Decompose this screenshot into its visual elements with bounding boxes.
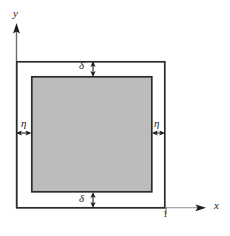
y-axis-label: y — [13, 8, 18, 19]
diagram-svg — [0, 0, 230, 236]
eta-left-label: η — [21, 118, 26, 129]
x-axis-label: x — [214, 200, 219, 211]
eta-right-label: η — [154, 118, 159, 129]
x-axis-tick-label-1: 1 — [163, 210, 168, 219]
inner-shaded-square — [32, 77, 152, 192]
delta-top-label: δ — [79, 60, 84, 71]
delta-bottom-label: δ — [79, 193, 84, 204]
figure-canvas: y x δ δ η η 1 — [0, 0, 230, 236]
